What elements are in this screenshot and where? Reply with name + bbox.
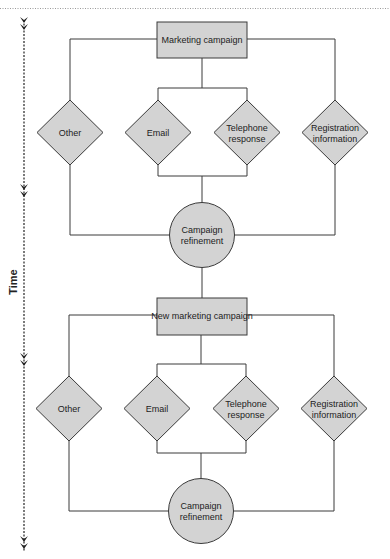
refinement-label-line2: refinement <box>180 512 223 522</box>
cycle-2-nodes: New marketing campaign Other Email Telep… <box>36 298 367 544</box>
connector <box>157 364 246 376</box>
connector <box>70 165 170 235</box>
flow-diagram: Time Marketing campaign Other Email Tele… <box>0 0 390 559</box>
campaign-label: Marketing campaign <box>161 35 242 45</box>
connector <box>70 39 157 100</box>
connector <box>69 441 169 511</box>
refinement-circle <box>170 203 235 268</box>
decision-email-label: Email <box>147 128 170 138</box>
connector <box>158 88 247 100</box>
decision-email-label: Email <box>146 404 169 414</box>
connector <box>157 441 246 453</box>
refinement-label-line1: Campaign <box>181 225 222 235</box>
refinement-label-line1: Campaign <box>180 501 221 511</box>
decision-other-label: Other <box>59 128 82 138</box>
decision-registration-label-line2: information <box>313 134 358 144</box>
connector <box>234 165 335 235</box>
decision-telephone-label-line1: Telephone <box>226 123 268 133</box>
campaign-label: New marketing campaign <box>151 311 253 321</box>
decision-telephone-label-line1: Telephone <box>225 399 267 409</box>
connector <box>247 39 335 100</box>
connector <box>233 441 334 511</box>
decision-registration-label-line1: Registration <box>310 399 358 409</box>
connector <box>247 315 334 376</box>
decision-other-label: Other <box>58 404 81 414</box>
decision-registration-label-line1: Registration <box>311 123 359 133</box>
decision-telephone-label-line2: response <box>227 410 264 420</box>
time-axis: Time <box>7 17 28 552</box>
refinement-circle <box>169 479 234 544</box>
time-axis-label: Time <box>7 269 19 294</box>
decision-telephone-label-line2: response <box>228 134 265 144</box>
connector <box>158 165 247 176</box>
connector <box>69 315 157 376</box>
refinement-label-line2: refinement <box>181 236 224 246</box>
decision-registration-label-line2: information <box>312 410 357 420</box>
